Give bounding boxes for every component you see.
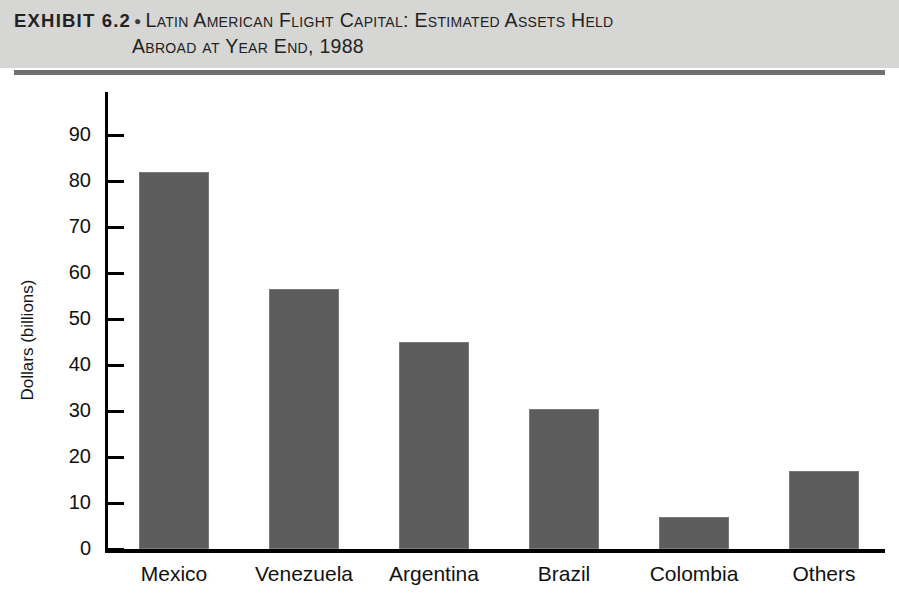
y-tick-label: 20 (31, 446, 91, 466)
bar-argentina (399, 342, 469, 549)
y-tick-label: 50 (31, 308, 91, 328)
y-tick-label: 10 (31, 492, 91, 512)
plot-region: 0102030405060708090 MexicoVenezuelaArgen… (105, 78, 885, 551)
bar-others (789, 471, 859, 549)
exhibit-header-text: EXHIBIT 6.2●Latin American Flight Capita… (14, 7, 874, 60)
y-tick-label: 40 (31, 354, 91, 374)
chart-area: Dollars (billions) 0102030405060708090 M… (0, 78, 899, 604)
bullet-separator-icon: ● (131, 14, 145, 28)
exhibit-title-line-1: Latin American Flight Capital: Estimated… (146, 9, 614, 31)
y-tick-label: 70 (31, 216, 91, 236)
header-divider-rule (14, 70, 885, 75)
exhibit-header-band: EXHIBIT 6.2●Latin American Flight Capita… (0, 0, 899, 68)
bar-brazil (529, 409, 599, 549)
bar-mexico (139, 172, 209, 549)
y-tick-label: 30 (31, 400, 91, 420)
y-tick-label: 0 (31, 538, 91, 558)
y-tick-label: 80 (31, 170, 91, 190)
bar-venezuela (269, 289, 339, 549)
y-tick-label: 60 (31, 262, 91, 282)
x-label-others: Others (734, 562, 899, 586)
bar-colombia (659, 517, 729, 549)
exhibit-title-line-2: Abroad at Year End, 1988 (132, 33, 874, 60)
y-tick-label: 90 (31, 124, 91, 144)
exhibit-number-label: EXHIBIT 6.2 (14, 10, 131, 31)
bar-series (105, 78, 885, 551)
